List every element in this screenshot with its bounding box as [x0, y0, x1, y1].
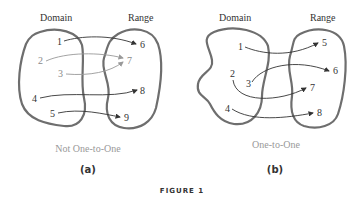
- caption-a: Not One-to-One: [55, 143, 121, 154]
- sublabel-a: (a): [80, 164, 96, 175]
- range-item-5: 5: [322, 37, 327, 48]
- domain-label-a: Domain: [40, 12, 72, 23]
- domain-item-1: 1: [238, 41, 243, 52]
- range-item-9: 9: [124, 112, 129, 123]
- range-label-a: Range: [128, 12, 154, 23]
- range-item-8: 8: [317, 107, 322, 118]
- figure-label: FIGURE 1: [160, 187, 204, 195]
- arrow-4-8: [232, 109, 313, 118]
- figure-canvas: Domain Range 1 2 3 4 5 6 7 8 9 Not One-t…: [0, 0, 362, 197]
- arrow-2-7: [233, 80, 306, 98]
- arrow-5-9: [58, 111, 120, 117]
- domain-item-5: 5: [50, 108, 55, 119]
- range-blob-a: [103, 29, 161, 128]
- domain-item-3: 3: [246, 78, 251, 89]
- range-item-7: 7: [127, 55, 132, 66]
- domain-item-4: 4: [225, 103, 230, 114]
- arrow-3-7: [66, 62, 123, 75]
- domain-item-2: 2: [38, 55, 43, 66]
- range-item-8: 8: [140, 85, 145, 96]
- range-label-b: Range: [310, 12, 336, 23]
- domain-label-b: Domain: [219, 12, 251, 23]
- arrow-1-6: [64, 37, 136, 44]
- arrow-1-5: [245, 43, 318, 53]
- panel-a: Domain Range 1 2 3 4 5 6 7 8 9 Not One-t…: [19, 12, 161, 175]
- domain-item-4: 4: [32, 93, 37, 104]
- sublabel-b: (b): [267, 164, 283, 175]
- range-item-7: 7: [310, 82, 315, 93]
- panel-b: Domain Range 1 2 3 4 5 6 7 8 One-to-One …: [198, 12, 346, 175]
- arrow-4-8: [40, 90, 137, 98]
- caption-b: One-to-One: [252, 139, 300, 150]
- range-item-6: 6: [333, 65, 338, 76]
- domain-item-1: 1: [57, 36, 62, 47]
- domain-item-3: 3: [58, 68, 63, 79]
- arrow-2-7: [46, 54, 123, 61]
- range-item-6: 6: [140, 39, 145, 50]
- domain-item-2: 2: [230, 68, 235, 79]
